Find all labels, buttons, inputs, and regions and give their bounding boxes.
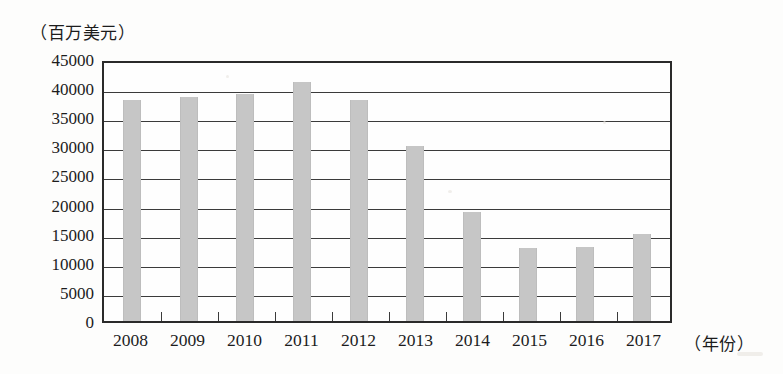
- x-axis-tick-label: 2010: [216, 330, 273, 351]
- x-axis-tick-label: 2009: [159, 330, 216, 351]
- bar-cell: [387, 63, 444, 321]
- x-axis-tick-label: 2008: [102, 330, 159, 351]
- bar-2015: [519, 248, 537, 321]
- x-axis-tick-label: 2015: [501, 330, 558, 351]
- bar-2013: [406, 146, 424, 321]
- bar-cell: [274, 63, 331, 321]
- scan-speckle: [603, 121, 606, 124]
- scan-speckle: [448, 190, 452, 193]
- y-axis-tick-label: 20000: [4, 198, 94, 215]
- scan-speckle: [226, 75, 229, 78]
- scan-speckle: [737, 352, 763, 356]
- y-axis-tick-label: 25000: [4, 168, 94, 185]
- bar-2012: [350, 100, 368, 321]
- bar-2011: [293, 82, 311, 321]
- chart-figure: （百万美元） 450004000035000300002500020000150…: [0, 0, 783, 374]
- bar-2017: [633, 234, 651, 321]
- bar-2008: [123, 100, 141, 321]
- bar-cell: [104, 63, 161, 321]
- bar-cell: [444, 63, 501, 321]
- y-axis-tick-label: 5000: [4, 285, 94, 302]
- bar-2016: [576, 247, 594, 321]
- y-axis-tick-label: 15000: [4, 227, 94, 244]
- y-axis-tick-label: 30000: [4, 139, 94, 156]
- y-axis-tick-label: 40000: [4, 81, 94, 98]
- x-axis-tick-label: 2017: [615, 330, 672, 351]
- x-axis-tick-label: 2011: [273, 330, 330, 351]
- plot-area: [102, 61, 672, 323]
- bar-2009: [180, 97, 198, 321]
- y-axis-tick-label: 45000: [4, 52, 94, 69]
- y-axis-tick-label: 35000: [4, 110, 94, 127]
- bar-cell: [217, 63, 274, 321]
- bar-series: [104, 63, 670, 321]
- bar-cell: [613, 63, 670, 321]
- bar-2014: [463, 212, 481, 321]
- bar-2010: [236, 94, 254, 321]
- bar-cell: [330, 63, 387, 321]
- bar-cell: [557, 63, 614, 321]
- x-axis-tick-label: 2014: [444, 330, 501, 351]
- y-axis-unit-label: （百万美元）: [30, 19, 135, 44]
- bar-cell: [161, 63, 218, 321]
- x-axis-tick-label: 2013: [387, 330, 444, 351]
- y-axis-tick-label: 0: [4, 314, 94, 331]
- x-axis-tick-labels: 2008200920102011201220132014201520162017: [102, 330, 672, 351]
- y-axis-tick-label: 10000: [4, 256, 94, 273]
- x-axis-tick-label: 2012: [330, 330, 387, 351]
- bar-cell: [500, 63, 557, 321]
- x-axis-tick-label: 2016: [558, 330, 615, 351]
